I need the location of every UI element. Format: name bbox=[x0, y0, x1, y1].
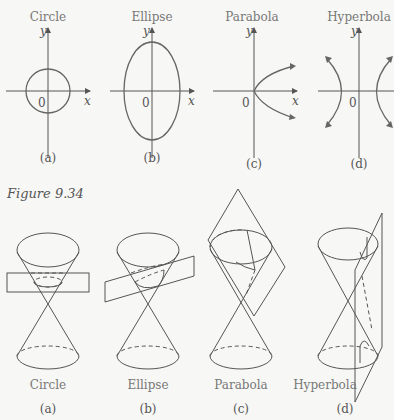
panel-label: (c) bbox=[233, 402, 249, 416]
arrow-head-icon bbox=[325, 121, 332, 128]
hyperbola-left-branch bbox=[327, 59, 342, 125]
cone-ellipse bbox=[105, 233, 194, 369]
hyperbola-lower-section bbox=[360, 341, 369, 363]
origin-label: 0 bbox=[38, 96, 46, 110]
panel-label: (d) bbox=[350, 157, 367, 171]
conic-sections-figure: Circle y x 0 Ellipse y x 0 Parabola y x … bbox=[0, 0, 394, 420]
cone-label: Ellipse bbox=[127, 378, 168, 392]
panel-label: (a) bbox=[40, 402, 57, 416]
top-panel-parabola: Parabola y x 0 bbox=[213, 10, 299, 158]
origin-label: 0 bbox=[142, 96, 150, 110]
cone-label: Parabola bbox=[214, 378, 267, 392]
cone-top-rim-hidden bbox=[210, 230, 245, 247]
panel-label: (d) bbox=[336, 402, 353, 416]
hyperbola-right-branch bbox=[377, 59, 392, 125]
panel-label: (b) bbox=[143, 151, 160, 165]
cone-top-rim bbox=[318, 228, 378, 260]
panel-label: (b) bbox=[139, 402, 156, 416]
arrow-head-icon bbox=[386, 56, 393, 63]
arrow-head-icon bbox=[289, 114, 296, 120]
plane-hidden-edge bbox=[362, 276, 372, 330]
cone-label: Circle bbox=[30, 378, 66, 392]
cone-bottom-rim-front bbox=[117, 356, 179, 369]
cone-label: Hyperbola bbox=[293, 378, 357, 392]
origin-label: 0 bbox=[242, 96, 250, 110]
y-axis-label: y bbox=[142, 24, 150, 38]
parabola-lower-branch bbox=[254, 91, 294, 118]
cone-bottom-rim-back bbox=[117, 346, 179, 356]
cone-hyperbola bbox=[318, 213, 382, 402]
cone-bottom-rim-back bbox=[318, 346, 378, 356]
panel-title: Hyperbola bbox=[327, 10, 391, 24]
x-axis-label: x bbox=[292, 94, 299, 108]
y-axis-label: y bbox=[245, 24, 253, 38]
top-panel-hyperbola: Hyperbola y 0 bbox=[318, 10, 394, 158]
cone-bottom-rim-front bbox=[318, 356, 378, 369]
cone-bottom-rim-back bbox=[17, 346, 79, 356]
cone-bottom-rim-front bbox=[210, 356, 272, 369]
figure-caption: Figure 9.34 bbox=[6, 186, 84, 201]
cone-bottom-rim-back bbox=[210, 346, 272, 356]
x-axis-label: x bbox=[84, 94, 91, 108]
panel-label: (a) bbox=[40, 151, 57, 165]
origin-label: 0 bbox=[349, 96, 357, 110]
hyperbola-upper-section bbox=[360, 237, 367, 260]
plane-hidden-edge bbox=[246, 270, 255, 295]
top-panel-circle: Circle y x 0 bbox=[6, 10, 91, 158]
x-axis-label: x bbox=[188, 94, 195, 108]
cone-top-rim bbox=[117, 233, 179, 267]
panel-title: Circle bbox=[30, 10, 66, 24]
arrow-head-icon bbox=[386, 121, 393, 128]
parabola-upper-branch bbox=[254, 66, 294, 91]
cone-parabola bbox=[208, 189, 285, 369]
cone-circle bbox=[7, 233, 89, 369]
circle-section-front bbox=[34, 282, 62, 287]
arrow-head-icon bbox=[290, 63, 296, 70]
arrow-head-icon bbox=[325, 56, 332, 63]
y-axis-label: y bbox=[350, 24, 358, 38]
panel-title: Parabola bbox=[225, 10, 278, 24]
panel-title: Ellipse bbox=[131, 10, 172, 24]
y-axis-label: y bbox=[39, 24, 47, 38]
cone-top-rim bbox=[17, 233, 79, 267]
top-panel-ellipse: Ellipse y x 0 bbox=[110, 10, 195, 158]
panel-label: (c) bbox=[246, 157, 262, 171]
cutting-plane bbox=[7, 273, 89, 292]
cutting-plane bbox=[105, 256, 194, 302]
cone-bottom-rim-front bbox=[17, 356, 79, 369]
cutting-plane bbox=[208, 189, 285, 316]
